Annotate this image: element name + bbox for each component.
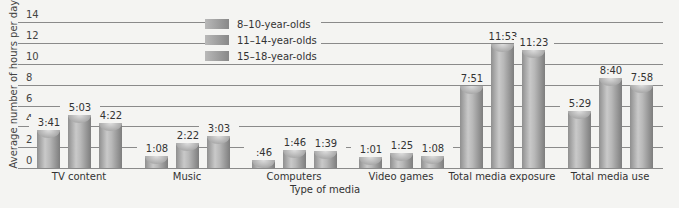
bar-value-label: 7:58 <box>622 72 662 83</box>
bar <box>99 123 122 168</box>
legend-swatch <box>205 19 229 29</box>
bar <box>599 78 622 168</box>
bar-value-label: 11:23 <box>514 37 554 48</box>
bar-value-label: 3:41 <box>29 117 69 128</box>
bar <box>145 156 168 168</box>
gridline <box>18 64 663 65</box>
legend-swatch <box>205 51 229 61</box>
y-tick-label: 6 <box>26 93 42 104</box>
x-category-label: Total media exposure <box>442 171 562 182</box>
gridline <box>18 85 663 86</box>
bar <box>460 86 483 168</box>
y-tick-label: 8 <box>26 72 42 83</box>
bar <box>390 153 413 168</box>
bar <box>630 85 653 168</box>
bar <box>568 111 591 168</box>
bar-value-label: 3:03 <box>199 123 239 134</box>
bar <box>522 50 545 168</box>
x-category-label: Computers <box>234 171 354 182</box>
y-tick-label: 12 <box>26 30 42 41</box>
gridline <box>18 22 663 23</box>
y-tick-label: 10 <box>26 51 42 62</box>
legend: 8–10-year-olds 11–14-year-olds 15–18-yea… <box>205 16 321 64</box>
y-axis-label: Average number of hours per day <box>8 19 19 169</box>
bar-value-label: 5:29 <box>560 98 600 109</box>
legend-swatch <box>205 35 229 45</box>
bar-value-label: 4:22 <box>91 110 131 121</box>
bar <box>359 157 382 168</box>
bar-value-label: 1:39 <box>306 138 346 149</box>
bar <box>252 160 275 168</box>
gridline <box>18 168 663 169</box>
legend-item-15-18: 15–18-year-olds <box>205 48 321 64</box>
bar-value-label: :46 <box>244 147 284 158</box>
bar <box>421 156 444 168</box>
bar-chart: Average number of hours per day 02468101… <box>0 0 679 208</box>
bar <box>68 115 91 168</box>
x-category-label: TV content <box>19 171 139 182</box>
legend-item-8-10: 8–10-year-olds <box>205 16 321 32</box>
bar <box>314 151 337 168</box>
gridline <box>18 43 663 44</box>
bar-value-label: 1:08 <box>413 143 453 154</box>
bar <box>207 136 230 168</box>
bar-value-label: 1:08 <box>137 143 177 154</box>
bar <box>491 44 514 168</box>
x-category-label: Music <box>127 171 247 182</box>
x-axis-label: Type of media <box>290 184 360 195</box>
bar <box>176 143 199 168</box>
x-category-label: Total media use <box>550 171 670 182</box>
bar <box>37 130 60 168</box>
legend-item-11-14: 11–14-year-olds <box>205 32 321 48</box>
y-tick-label: 14 <box>26 9 42 20</box>
bar-value-label: 7:51 <box>452 73 492 84</box>
bar <box>283 150 306 168</box>
